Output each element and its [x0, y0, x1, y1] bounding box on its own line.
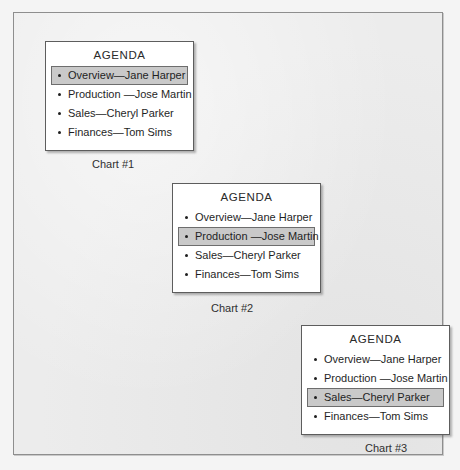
agenda-item-sales[interactable]: Sales—Cheryl Parker: [51, 104, 188, 123]
agenda-item-overview[interactable]: Overview—Jane Harper: [178, 208, 315, 227]
agenda-title-1: AGENDA: [46, 42, 193, 64]
bullet-dot-icon: [185, 235, 188, 238]
slide-frame: AGENDA Overview—Jane Harper Production —…: [13, 12, 443, 455]
agenda-item-label: Production —Jose Martin: [195, 230, 319, 242]
bullet-dot-icon: [58, 74, 61, 77]
agenda-item-label: Sales—Cheryl Parker: [195, 249, 301, 261]
chart-caption-2: Chart #2: [211, 302, 253, 314]
agenda-item-label: Sales—Cheryl Parker: [68, 107, 174, 119]
agenda-item-label: Production —Jose Martin: [68, 88, 192, 100]
agenda-item-production[interactable]: Production —Jose Martin: [307, 369, 444, 388]
agenda-list-2: Overview—Jane Harper Production —Jose Ma…: [173, 206, 320, 292]
bullet-dot-icon: [58, 112, 61, 115]
agenda-item-sales[interactable]: Sales—Cheryl Parker: [178, 246, 315, 265]
agenda-item-finances[interactable]: Finances—Tom Sims: [51, 123, 188, 142]
chart-caption-1: Chart #1: [92, 158, 134, 170]
bullet-dot-icon: [314, 377, 317, 380]
agenda-item-overview[interactable]: Overview—Jane Harper: [307, 350, 444, 369]
bullet-dot-icon: [185, 216, 188, 219]
agenda-item-label: Sales—Cheryl Parker: [324, 391, 430, 403]
agenda-item-label: Finances—Tom Sims: [324, 410, 428, 422]
agenda-item-label: Overview—Jane Harper: [195, 211, 312, 223]
agenda-item-finances[interactable]: Finances—Tom Sims: [178, 265, 315, 284]
bullet-dot-icon: [185, 273, 188, 276]
agenda-item-overview[interactable]: Overview—Jane Harper: [51, 66, 188, 85]
bullet-dot-icon: [58, 131, 61, 134]
agenda-list-1: Overview—Jane Harper Production —Jose Ma…: [46, 64, 193, 150]
agenda-item-label: Overview—Jane Harper: [324, 353, 441, 365]
agenda-card-3[interactable]: AGENDA Overview—Jane Harper Production —…: [301, 325, 450, 435]
agenda-card-1[interactable]: AGENDA Overview—Jane Harper Production —…: [45, 41, 194, 151]
bullet-dot-icon: [314, 358, 317, 361]
agenda-item-label: Production —Jose Martin: [324, 372, 448, 384]
agenda-item-finances[interactable]: Finances—Tom Sims: [307, 407, 444, 426]
chart-caption-3: Chart #3: [365, 442, 407, 454]
agenda-item-sales[interactable]: Sales—Cheryl Parker: [307, 388, 444, 407]
screenshot-stage: AGENDA Overview—Jane Harper Production —…: [0, 0, 460, 470]
agenda-title-2: AGENDA: [173, 184, 320, 206]
agenda-list-3: Overview—Jane Harper Production —Jose Ma…: [302, 348, 449, 434]
agenda-item-label: Finances—Tom Sims: [68, 126, 172, 138]
bullet-dot-icon: [185, 254, 188, 257]
bullet-dot-icon: [314, 415, 317, 418]
bullet-dot-icon: [314, 396, 317, 399]
agenda-item-label: Overview—Jane Harper: [68, 69, 185, 81]
agenda-card-2[interactable]: AGENDA Overview—Jane Harper Production —…: [172, 183, 321, 293]
agenda-item-production[interactable]: Production —Jose Martin: [51, 85, 188, 104]
bullet-dot-icon: [58, 93, 61, 96]
agenda-title-3: AGENDA: [302, 326, 449, 348]
agenda-item-label: Finances—Tom Sims: [195, 268, 299, 280]
agenda-item-production[interactable]: Production —Jose Martin: [178, 227, 315, 246]
